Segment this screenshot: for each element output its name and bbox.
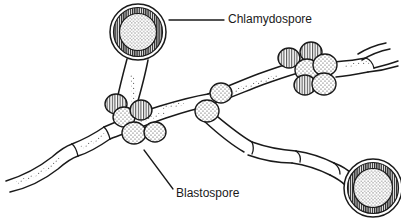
chlamydospore-top-left [110, 4, 166, 60]
chlamydospore-label: Chlamydospore [228, 12, 312, 26]
blastospore-mid-lower [195, 100, 219, 122]
hypha-lower-right [204, 112, 352, 185]
fungal-morphology-diagram: Chlamydospore Blastospore [0, 0, 401, 218]
blastospore-leader-line [144, 150, 173, 189]
chlamydospore-bottom-right [344, 159, 401, 217]
blastospore-cluster-center [105, 94, 166, 144]
blastospore-mid-upper [210, 83, 232, 103]
blastospore-label: Blastospore [176, 186, 240, 200]
hypha-main-lower-left [6, 127, 110, 192]
figure-container: Chlamydospore Blastospore [0, 0, 401, 218]
blastospore-cluster-upper-right [278, 42, 337, 95]
